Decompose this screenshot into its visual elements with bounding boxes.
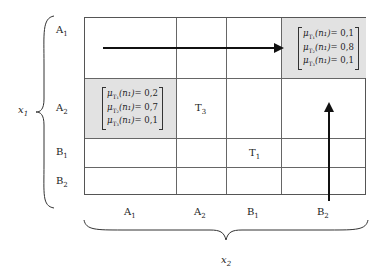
horizontal-arrow-icon [103,43,284,53]
x2-axis-label: x2 [221,255,231,269]
x2-brace [82,218,370,244]
vertical-arrow-icon [324,102,334,201]
